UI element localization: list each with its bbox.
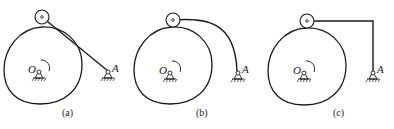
roller-icon: [166, 13, 180, 27]
caption-a: (a): [62, 107, 73, 119]
cam-profile: [134, 27, 212, 104]
caption-c: (c): [333, 107, 344, 119]
label-a: A: [111, 62, 119, 74]
cam-mechanism-figure: O A (a) O A (b) O A (c): [0, 0, 394, 129]
rotation-arrow-icon: [41, 60, 50, 71]
rotation-arrow-icon: [172, 61, 181, 72]
label-o: O: [159, 64, 167, 76]
rotation-arrow-icon: [306, 61, 315, 72]
label-a: A: [241, 63, 249, 75]
label-a: A: [376, 63, 384, 75]
label-o: O: [293, 64, 301, 76]
caption-b: (b): [196, 107, 208, 119]
panel-c: O A (c): [268, 14, 384, 119]
label-o: O: [28, 63, 36, 75]
cam-profile: [4, 27, 82, 104]
roller-icon: [35, 10, 49, 24]
roller-icon: [300, 14, 314, 28]
panel-a: O A (a): [4, 10, 119, 119]
follower-link-straight: [42, 17, 108, 71]
panel-b: O A (b): [134, 13, 249, 119]
cam-profile: [268, 28, 346, 105]
